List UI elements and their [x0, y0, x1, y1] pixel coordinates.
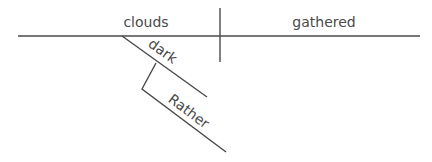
subject-word: clouds: [123, 14, 168, 30]
sentence-diagram: clouds gathered dark Rather: [0, 0, 432, 162]
modifier-word-dark: dark: [146, 35, 182, 67]
predicate-word: gathered: [292, 14, 355, 30]
